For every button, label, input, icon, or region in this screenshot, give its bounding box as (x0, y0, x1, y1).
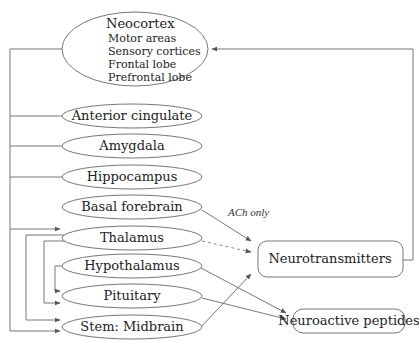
neocortex-item: Frontal lobe (108, 58, 176, 71)
neocortex-item: Prefrontal lobe (108, 71, 192, 84)
stem-midbrain-label: Stem: Midbrain (80, 319, 184, 334)
basal-forebrain-label: Basal forebrain (81, 199, 183, 214)
hippocampus-label: Hippocampus (87, 169, 178, 184)
neocortex-item: Sensory cortices (108, 45, 201, 58)
neurotransmitters-label: Neurotransmitters (268, 251, 391, 266)
pituitary-label: Pituitary (103, 288, 161, 303)
node-thalamus: Thalamus (62, 226, 202, 250)
anterior-cingulate-label: Anterior cingulate (71, 108, 193, 123)
node-hippocampus: Hippocampus (62, 165, 202, 189)
node-pituitary: Pituitary (62, 284, 202, 308)
left-trunk-connectors (10, 49, 66, 331)
node-amygdala: Amygdala (62, 134, 202, 158)
right-connectors (200, 49, 413, 328)
ach-only-annotation: ACh only (227, 206, 269, 218)
neuroactive-peptides-label: Neuroactive peptides (278, 313, 419, 328)
output-neuroactive-peptides: Neuroactive peptides (278, 309, 419, 333)
neocortex-title: Neocortex (106, 16, 175, 31)
thalamus-label: Thalamus (100, 230, 164, 245)
neocortex-item: Motor areas (108, 32, 177, 45)
node-anterior-cingulate: Anterior cingulate (62, 104, 202, 128)
hypothalamus-label: Hypothalamus (84, 258, 179, 273)
brain-neurochemistry-diagram: Neocortex Motor areas Sensory cortices F… (0, 0, 419, 343)
output-neurotransmitters: Neurotransmitters (258, 241, 403, 277)
node-stem-midbrain: Stem: Midbrain (62, 315, 202, 339)
amygdala-label: Amygdala (98, 138, 165, 153)
node-hypothalamus: Hypothalamus (62, 254, 202, 278)
node-basal-forebrain: Basal forebrain (62, 195, 202, 219)
node-neocortex: Neocortex Motor areas Sensory cortices F… (62, 12, 208, 86)
